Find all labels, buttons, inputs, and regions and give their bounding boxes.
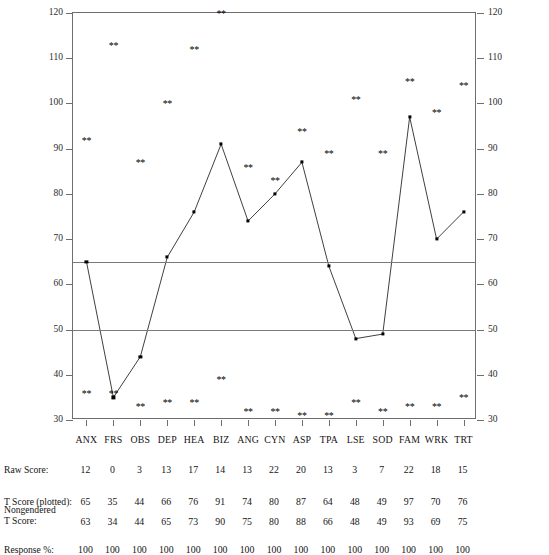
profile-line-path	[73, 13, 477, 420]
asterisk-marker-lower-lse: **	[351, 399, 360, 404]
table-cell: 100	[455, 544, 470, 555]
table-cell: 76	[458, 496, 468, 507]
y-axis-label: 70	[488, 234, 498, 244]
data-point-trt	[462, 210, 465, 213]
scale-label-hea: HEA	[184, 434, 205, 445]
y-axis-label: 50	[488, 325, 498, 335]
scale-label-tpa: TPA	[320, 434, 338, 445]
y-axis-tick	[66, 420, 73, 421]
table-cell: 49	[377, 516, 387, 527]
table-cell: 100	[213, 544, 228, 555]
scale-label-biz: BIZ	[213, 434, 229, 445]
scale-label-dep: DEP	[158, 434, 177, 445]
y-axis-tick	[477, 375, 484, 376]
asterisk-marker-upper-lse: **	[351, 96, 360, 101]
scale-label-asp: ASP	[293, 434, 312, 445]
reference-line-65	[73, 262, 475, 263]
table-cell: 44	[134, 496, 144, 507]
data-point-tpa	[327, 265, 330, 268]
table-cell: 100	[105, 544, 120, 555]
scale-label-sod: SOD	[373, 434, 393, 445]
table-cell: 65	[161, 516, 171, 527]
table-cell: 75	[458, 516, 468, 527]
scale-label-obs: OBS	[130, 434, 150, 445]
table-cell: 73	[188, 516, 198, 527]
asterisk-marker-upper-cyn: **	[270, 178, 279, 183]
table-cell: 100	[321, 544, 336, 555]
data-point-fam	[408, 115, 411, 118]
y-axis-tick	[66, 284, 73, 285]
table-cell: 14	[215, 464, 225, 475]
y-axis-label: 90	[488, 144, 498, 154]
y-axis-label: 70	[54, 234, 64, 244]
scale-label-cyn: CYN	[264, 434, 285, 445]
asterisk-marker-upper-ang: **	[243, 164, 252, 169]
table-cell: 48	[350, 516, 360, 527]
table-cell: 13	[161, 464, 171, 475]
y-axis-tick	[66, 375, 73, 376]
table-cell: 100	[78, 544, 93, 555]
scale-label-frs: FRS	[104, 434, 122, 445]
table-cell: 3	[352, 464, 357, 475]
y-axis-tick	[477, 149, 484, 150]
y-axis-label: 80	[54, 189, 64, 199]
asterisk-marker-upper-sod: **	[378, 151, 387, 156]
y-axis-label: 60	[488, 279, 498, 289]
table-cell: 22	[404, 464, 414, 475]
x-axis-tick	[194, 420, 195, 426]
x-axis-tick	[167, 420, 168, 426]
y-axis-label: 40	[54, 370, 64, 380]
asterisk-marker-lower-wrk: **	[432, 404, 441, 409]
table-cell: 90	[215, 516, 225, 527]
data-point-anx	[85, 260, 88, 263]
asterisk-marker-upper-trt: **	[459, 83, 468, 88]
data-point-sod	[381, 332, 384, 335]
y-axis-label: 30	[54, 415, 64, 425]
y-axis-tick	[477, 284, 484, 285]
scale-label-fam: FAM	[399, 434, 420, 445]
asterisk-marker-lower-sod: **	[378, 408, 387, 413]
asterisk-marker-lower-dep: **	[163, 399, 172, 404]
y-axis-tick	[66, 13, 73, 14]
asterisk-marker-upper-tpa: **	[324, 151, 333, 156]
y-axis-tick	[66, 194, 73, 195]
y-axis-label: 100	[488, 98, 502, 108]
table-cell: 100	[294, 544, 309, 555]
table-cell: 97	[404, 496, 414, 507]
y-axis-tick	[477, 13, 484, 14]
asterisk-marker-upper-hea: **	[190, 47, 199, 52]
table-cell: 88	[296, 516, 306, 527]
table-cell: 3	[137, 464, 142, 475]
table-cell: 35	[107, 496, 117, 507]
asterisk-marker-upper-asp: **	[297, 128, 306, 133]
table-cell: 64	[323, 496, 333, 507]
x-axis-tick	[113, 420, 114, 426]
table-cell: 13	[323, 464, 333, 475]
asterisk-marker-upper-fam: **	[405, 78, 414, 83]
table-cell: 49	[377, 496, 387, 507]
y-axis-tick	[477, 58, 484, 59]
y-axis-tick	[66, 103, 73, 104]
table-cell: 100	[240, 544, 255, 555]
asterisk-marker-upper-frs: **	[109, 42, 118, 47]
table-cell: 100	[401, 544, 416, 555]
table-cell: 18	[431, 464, 441, 475]
plot-frame: 3030404050506060707080809090100100110110…	[72, 12, 476, 419]
table-cell: 75	[242, 516, 252, 527]
data-point-asp	[300, 161, 303, 164]
asterisk-marker-upper-anx: **	[82, 137, 91, 142]
x-axis-tick	[221, 420, 222, 426]
data-point-wrk	[435, 238, 438, 241]
table-cell: 100	[347, 544, 362, 555]
asterisk-marker-lower-anx: **	[82, 390, 91, 395]
asterisk-marker-lower-trt: **	[459, 395, 468, 400]
y-axis-tick	[477, 330, 484, 331]
asterisk-marker-upper-obs: **	[136, 160, 145, 165]
x-axis-tick	[437, 420, 438, 426]
x-axis-tick	[86, 420, 87, 426]
y-axis-label: 110	[488, 53, 502, 63]
reference-line-50	[73, 330, 475, 331]
asterisk-marker-lower-hea: **	[190, 399, 199, 404]
table-cell: 100	[428, 544, 443, 555]
